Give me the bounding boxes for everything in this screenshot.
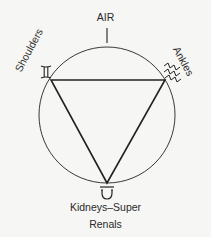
aquarius-icon: [164, 63, 181, 82]
kidneys-label-line1: Kidneys–Super: [0, 201, 211, 213]
inverted-triangle: [51, 80, 165, 183]
outer-circle: [39, 47, 175, 183]
libra-icon: [100, 187, 114, 199]
kidneys-label-line2: Renals: [0, 218, 211, 230]
air-label: AIR: [0, 11, 211, 23]
gemini-icon: [41, 66, 51, 78]
